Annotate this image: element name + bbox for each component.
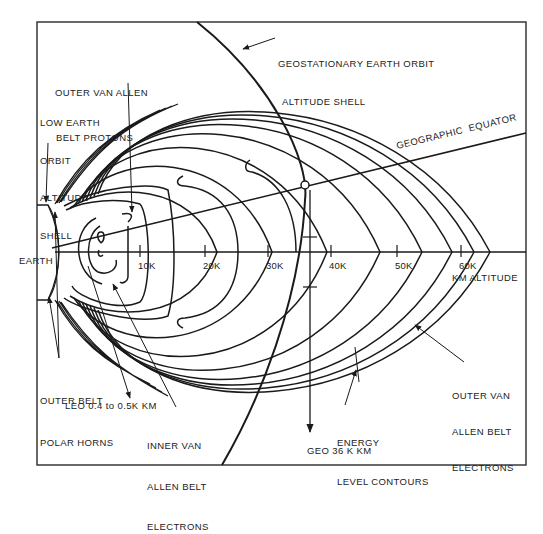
label-leo-shell: LOW EARTH ORBIT ALTITUDE SHELL xyxy=(40,92,100,255)
geo-equator-point xyxy=(301,181,309,189)
inner-belt-contour-3 xyxy=(120,213,131,282)
arrow-inner-electrons xyxy=(113,284,176,407)
axis-tick-label: 40K xyxy=(329,260,347,271)
label-earth: EARTH xyxy=(19,255,53,268)
label-line: ALLEN BELT xyxy=(452,426,514,438)
label-line: POLAR HORNS xyxy=(40,436,114,450)
label-polar-horns: OUTER BELT POLAR HORNS xyxy=(40,366,114,464)
inner-energy-contour xyxy=(246,160,296,252)
label-line: ENERGY xyxy=(337,436,429,449)
label-line: INNER VAN xyxy=(147,439,209,453)
label-line: ELECTRONS xyxy=(452,462,514,474)
label-inner-electrons: INNER VAN ALLEN BELT ELECTRONS xyxy=(147,412,209,534)
label-line: ORBIT xyxy=(40,155,100,168)
label-line: ALLEN BELT xyxy=(147,480,209,494)
label-line: ALTITUDE xyxy=(40,192,100,205)
label-line: OUTER VAN xyxy=(452,390,514,402)
axis-tick-label: 30K xyxy=(266,260,284,271)
label-line: ELECTRONS xyxy=(147,520,209,534)
label-line: LOW EARTH xyxy=(40,117,100,130)
axis-tick-label: 10K xyxy=(138,260,156,271)
label-line: SHELL xyxy=(40,230,100,243)
label-leo-range: LEO 0.4 to 0.5K KM xyxy=(65,400,157,413)
arrow-geo-shell xyxy=(243,38,275,49)
label-energy-contours: ENERGY LEVEL CONTOURS xyxy=(337,410,429,501)
label-outer-electrons: OUTER VAN ALLEN BELT ELECTRONS xyxy=(452,366,514,486)
axis-tick-label: 20K xyxy=(203,260,221,271)
axis-tick-label: 60K xyxy=(459,260,477,271)
arrow-outer-electrons xyxy=(415,325,464,362)
label-geo-shell: GEOSTATIONARY EARTH ORBIT ALTITUDE SHELL xyxy=(278,33,434,121)
label-line: LEVEL CONTOURS xyxy=(337,475,429,488)
label-line: ALTITUDE SHELL xyxy=(278,96,434,109)
label-line: GEOSTATIONARY EARTH ORBIT xyxy=(278,58,434,71)
axis-tick-label: 50K xyxy=(395,260,413,271)
label-axis-unit: KM ALTITUDE xyxy=(452,272,518,285)
